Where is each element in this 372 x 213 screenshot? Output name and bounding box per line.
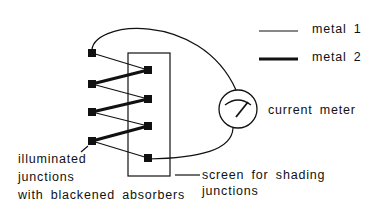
screen-label-line2: junctions [202,184,259,199]
legend-metal1-label: metal 1 [312,22,362,37]
thermopile-diagram: metal 1 metal 2 current meter illuminate… [0,0,372,213]
screen-label-line1: screen for shading [202,168,325,183]
metal2-wires [92,70,148,141]
wire-bottom [148,128,233,159]
current-meter-label: current meter [268,103,356,118]
legend-metal2-label: metal 2 [312,50,362,65]
illuminated-label-line2: junctions [18,170,75,185]
current-meter-icon [219,90,257,128]
illuminated-label-line1: illuminated [18,152,87,167]
illuminated-label-line3: with blackened absorbers [18,188,185,203]
